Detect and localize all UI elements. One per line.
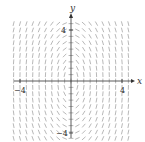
y-axis-arrow-icon: [69, 13, 73, 18]
x-axis-label: x: [137, 76, 142, 86]
x-tick-neg4: −4: [14, 86, 26, 95]
slope-field-plot: x y −4 4 4 −4: [0, 0, 145, 142]
y-tick-4: 4: [61, 26, 66, 35]
y-tick-neg4: −4: [56, 129, 68, 138]
x-tick-4: 4: [120, 86, 125, 95]
x-axis-arrow-icon: [131, 79, 135, 83]
axes: [14, 16, 131, 138]
y-axis-label: y: [69, 3, 76, 13]
